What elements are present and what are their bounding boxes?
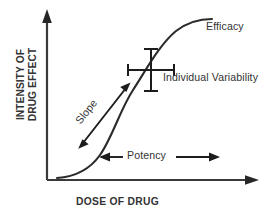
dose-response-figure: INTENSITY OF DRUG EFFECT DOSE OF DRUG Ef… [0,0,273,218]
y-axis-label: INTENSITY OF DRUG EFFECT [15,37,38,133]
potency-label: Potency [127,150,166,161]
arrow-up-icon [42,9,52,23]
efficacy-label: Efficacy [206,21,244,32]
y-axis-label-line1: INTENSITY OF [15,49,26,120]
figure-canvas [0,0,273,218]
x-axis-label: DOSE OF DRUG [76,196,159,207]
y-axis-label-line2: DRUG EFFECT [26,37,38,133]
individual-variability-label: Individual Variability [163,72,258,83]
arrow-right-icon [245,175,259,185]
error-bar-cross-icon [128,49,174,91]
